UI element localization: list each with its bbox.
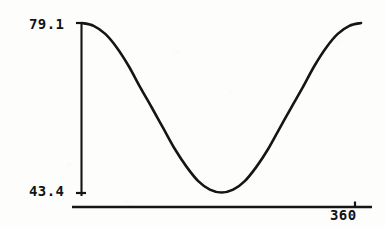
data-curve-line [82,23,361,193]
chart-figure: 79.1 43.4 360 [0,0,385,229]
x-axis-max-label: 360 [330,208,357,222]
y-axis-min-label: 43.4 [29,184,64,198]
y-axis-max-label: 79.1 [29,17,64,31]
